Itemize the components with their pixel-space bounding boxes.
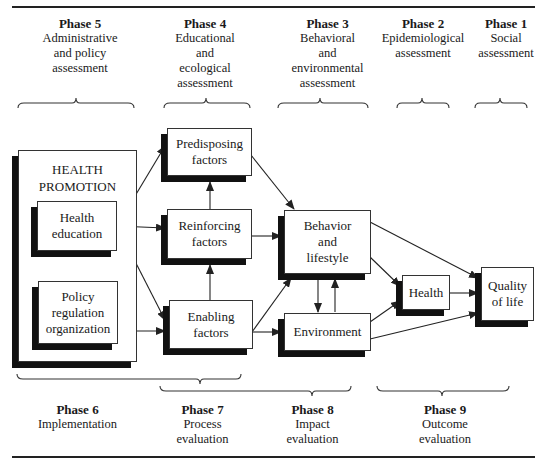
brace-phase-1: [475, 98, 527, 108]
environment-box: Environment: [284, 313, 371, 351]
brace-phase-5: [18, 98, 134, 108]
health-promotion-title: HEALTH PROMOTION: [19, 161, 136, 195]
brace-phase-3: [278, 98, 368, 108]
health-box: Health: [402, 275, 450, 310]
brace-phase-7-8: [160, 386, 351, 396]
quality-of-life-box: Quality of life: [481, 267, 534, 321]
brace-phase-4: [164, 98, 250, 108]
brace-phase-9: [377, 386, 509, 396]
predisposing-factors-box: Predisposing factors: [167, 128, 252, 176]
behavior-lifestyle-box: Behavior and lifestyle: [284, 210, 371, 274]
brace-phase-2: [397, 98, 449, 108]
enabling-factors-box: Enabling factors: [169, 300, 253, 349]
reinforcing-factors-box: Reinforcing factors: [167, 209, 252, 259]
brace-phase-6: [17, 374, 241, 384]
health-education-box: Health education: [37, 201, 117, 251]
policy-regulation-organization-box: Policy regulation organization: [38, 281, 118, 344]
